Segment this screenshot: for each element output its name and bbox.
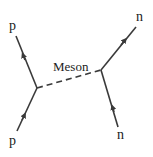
outgoing-proton-line <box>16 36 37 88</box>
bottom-right-neutron-label: n <box>117 128 124 142</box>
top-left-proton-label: p <box>9 19 16 33</box>
meson-label: Meson <box>53 60 88 73</box>
outgoing-neutron-line <box>101 27 136 70</box>
diagram-lines <box>0 0 153 157</box>
bottom-left-proton-label: p <box>9 134 16 148</box>
feynman-diagram: p p n n Meson <box>0 0 153 157</box>
arrow-icon <box>22 115 25 120</box>
top-right-neutron-label: n <box>136 10 143 24</box>
incoming-proton-line <box>17 88 37 131</box>
incoming-neutron-line <box>101 70 118 127</box>
